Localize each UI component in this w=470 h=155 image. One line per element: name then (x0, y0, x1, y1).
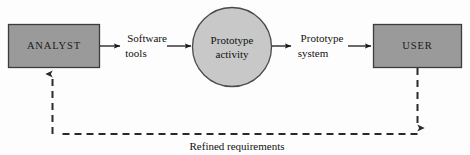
prototype-system-label-line2: system (298, 47, 329, 59)
analyst-label: ANALYST (27, 40, 81, 51)
prototyping-process-diagram: ANALYST Software tools Prototype activit… (0, 0, 470, 155)
software-tools-label-line1: Software (127, 32, 167, 44)
edge-label-prototype-system: Prototype system (298, 32, 344, 59)
refined-requirements-label: Refined requirements (190, 140, 285, 152)
edge-label-software-tools: Software tools (125, 32, 167, 59)
prototype-activity-label-line2: activity (216, 48, 249, 60)
node-user[interactable]: USER (374, 25, 462, 68)
diagram-canvas: ANALYST Software tools Prototype activit… (0, 0, 470, 155)
prototype-activity-label-line1: Prototype (211, 34, 254, 46)
user-label: USER (402, 40, 432, 51)
node-analyst[interactable]: ANALYST (9, 25, 100, 68)
node-prototype-activity[interactable]: Prototype activity (193, 8, 272, 87)
prototype-system-label-line1: Prototype (301, 32, 344, 44)
software-tools-label-line2: tools (125, 47, 146, 59)
